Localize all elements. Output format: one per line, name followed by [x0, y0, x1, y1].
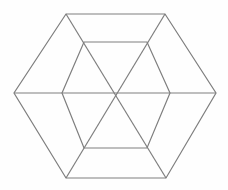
page [0, 0, 228, 190]
figure-canvas [0, 0, 228, 190]
hexagon-figure [0, 0, 228, 190]
